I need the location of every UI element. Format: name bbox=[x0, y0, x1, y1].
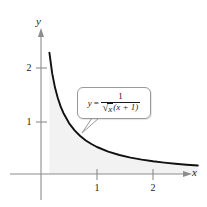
equation-fraction: 1 √ x (x + 1) bbox=[101, 92, 141, 114]
callout-pointer bbox=[82, 118, 99, 133]
radical-group: √ x bbox=[103, 103, 114, 114]
y-axis-arrow-icon bbox=[38, 28, 44, 37]
y-axis-label: y bbox=[36, 16, 41, 27]
equation-numerator: 1 bbox=[115, 92, 126, 101]
equation-lhs: y bbox=[88, 98, 92, 108]
denominator-factor: (x + 1) bbox=[113, 103, 138, 112]
x-tick-label-2: 2 bbox=[148, 183, 158, 193]
equation-formula: y = 1 √ x (x + 1) bbox=[88, 92, 141, 114]
equation-equals-sign: = bbox=[94, 98, 99, 108]
equation-callout: y = 1 √ x (x + 1) bbox=[77, 87, 151, 119]
y-tick-label-1: 1 bbox=[24, 117, 34, 127]
x-axis-label: x bbox=[192, 167, 197, 178]
equation-denominator: √ x (x + 1) bbox=[101, 103, 141, 114]
area-under-curve-figure: x y 1 2 1 2 y = 1 √ x (x + 1) bbox=[0, 0, 207, 207]
y-tick-label-2: 2 bbox=[24, 63, 34, 73]
x-tick-label-1: 1 bbox=[92, 183, 102, 193]
